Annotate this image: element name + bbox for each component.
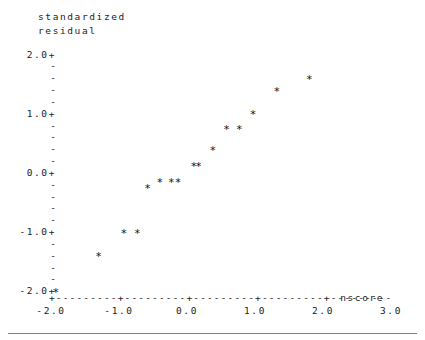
data-point: * [236, 124, 243, 135]
data-point: * [273, 85, 280, 96]
data-point: * [156, 177, 163, 188]
character-plot-figure: standardized residual 2.0+----1.0+----0.… [0, 0, 425, 340]
footer-divider [8, 333, 417, 334]
data-point: * [195, 161, 202, 172]
data-point: * [223, 124, 230, 135]
data-point: * [144, 183, 151, 194]
data-point: * [175, 177, 182, 188]
data-point: * [134, 227, 141, 238]
data-point: * [95, 251, 102, 262]
data-point: * [306, 73, 313, 84]
data-point: * [210, 144, 217, 155]
data-point: * [250, 109, 257, 120]
data-point: * [168, 177, 175, 188]
data-points-layer: **************** [0, 0, 425, 340]
data-point: * [120, 227, 127, 238]
data-point: * [52, 286, 59, 297]
